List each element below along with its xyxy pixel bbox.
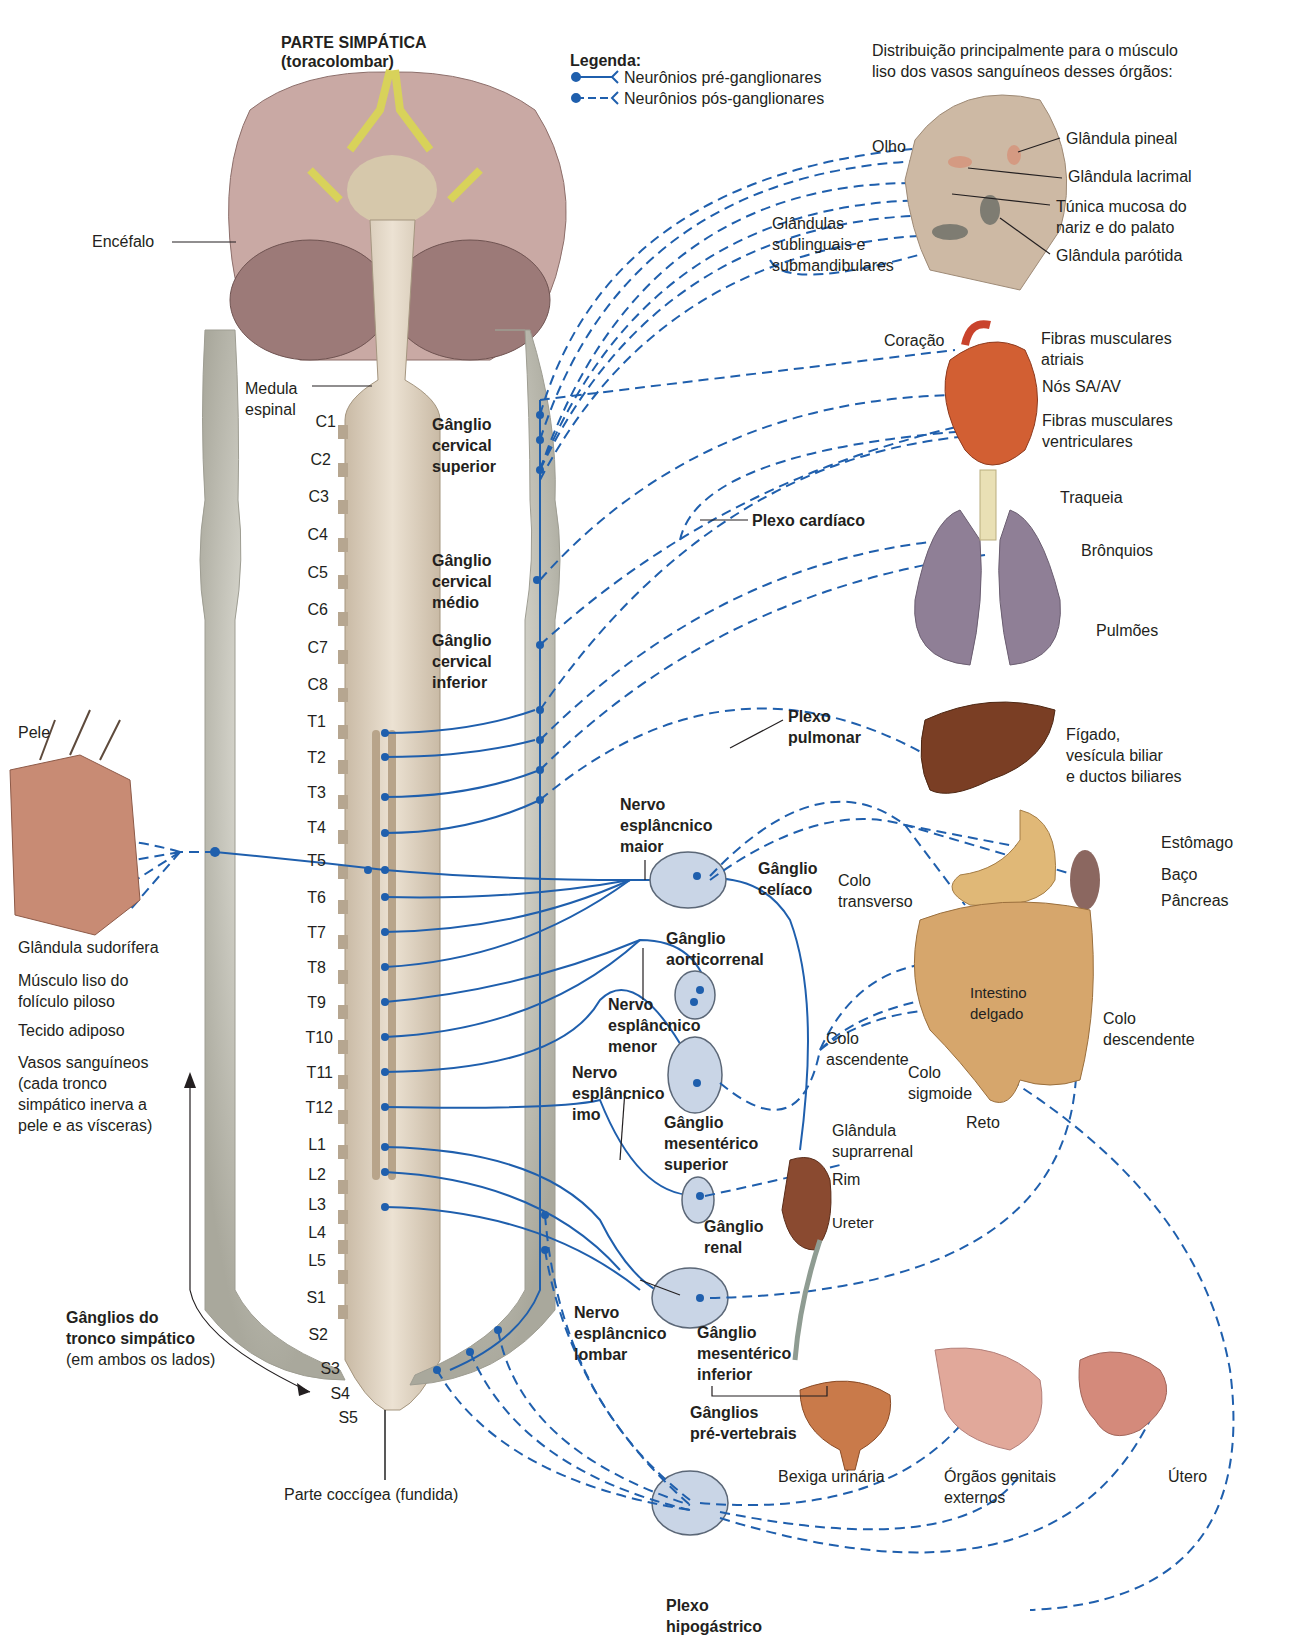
label-ganglio-renal: Gânglio renal xyxy=(704,1216,764,1258)
label-baco: Baço xyxy=(1161,864,1197,885)
legend-glyphs xyxy=(572,71,618,104)
segment-C6: C6 xyxy=(288,602,328,618)
label-encefalo: Encéfalo xyxy=(92,231,154,252)
label-ganglio-aorticorrenal: Gânglio aorticorrenal xyxy=(666,928,764,970)
segment-C4: C4 xyxy=(288,527,328,543)
head-illustration xyxy=(905,95,1067,290)
label-parte-coccigea: Parte coccígea (fundida) xyxy=(284,1484,458,1505)
label-ganglio-mesenterico-inferior: Gânglio mesentérico inferior xyxy=(697,1322,791,1385)
label-rim: Rim xyxy=(832,1169,860,1190)
label-colo-ascendente: Colo ascendente xyxy=(826,1028,909,1070)
segment-T4: T4 xyxy=(286,820,326,836)
label-estomago: Estômago xyxy=(1161,832,1233,853)
segment-T9: T9 xyxy=(286,995,326,1011)
label-lacrimal: Glândula lacrimal xyxy=(1068,166,1192,187)
label-olho: Olho xyxy=(872,136,906,157)
label-medula-espinal: Medula espinal xyxy=(245,378,297,420)
segment-T5: T5 xyxy=(286,853,326,869)
label-pineal: Glândula pineal xyxy=(1066,128,1177,149)
label-pulmoes: Pulmões xyxy=(1096,620,1158,641)
label-plexo-pulmonar: Plexo pulmonar xyxy=(788,706,861,748)
spinal-cord xyxy=(338,220,440,1480)
diagram-title: PARTE SIMPÁTICA xyxy=(281,32,426,53)
label-nervo-esplancnico-menor: Nervo esplâncnico menor xyxy=(608,994,700,1057)
segment-S5: S5 xyxy=(318,1410,358,1426)
label-ganglio-celiaco: Gânglio celíaco xyxy=(758,858,818,900)
skin-block-illustration xyxy=(10,710,140,935)
legend-item-postganglionic: Neurônios pós-ganglionares xyxy=(624,88,824,109)
label-ureter: Ureter xyxy=(832,1212,874,1233)
label-nos-sa-av: Nós SA/AV xyxy=(1042,376,1121,397)
label-pele: Pele xyxy=(18,722,50,743)
label-intestino-delgado: Intestino delgado xyxy=(970,982,1027,1024)
label-utero: Útero xyxy=(1168,1466,1207,1487)
label-nervo-esplancnico-maior: Nervo esplâncnico maior xyxy=(620,794,712,857)
label-fibras-ventriculares: Fibras musculares ventriculares xyxy=(1042,410,1173,452)
label-genitais: Órgãos genitais externos xyxy=(944,1466,1056,1508)
segment-T7: T7 xyxy=(286,925,326,941)
distribution-note: Distribuição principalmente para o múscu… xyxy=(872,40,1178,82)
label-mucosa: Túnica mucosa do nariz e do palato xyxy=(1056,196,1187,238)
segment-S3: S3 xyxy=(300,1361,340,1377)
label-tecido-adiposo: Tecido adiposo xyxy=(18,1020,125,1041)
segment-L4: L4 xyxy=(286,1225,326,1241)
label-fibras-atriais: Fibras musculares atriais xyxy=(1041,328,1172,370)
segment-L2: L2 xyxy=(286,1167,326,1183)
label-colo-transverso: Colo transverso xyxy=(838,870,913,912)
label-bexiga: Bexiga urinária xyxy=(778,1466,885,1487)
label-colo-descendente: Colo descendente xyxy=(1103,1008,1195,1050)
label-vasos-sanguineos: Vasos sanguíneos (cada tronco simpático … xyxy=(18,1052,152,1136)
label-figado: Fígado, vesícula biliar e ductos biliare… xyxy=(1066,724,1182,787)
segment-L5: L5 xyxy=(286,1253,326,1269)
legend-item-preganglionic: Neurônios pré-ganglionares xyxy=(624,67,821,88)
label-ganglios-tronco-simpatico: Gânglios do tronco simpático xyxy=(66,1307,195,1349)
segment-L1: L1 xyxy=(286,1137,326,1153)
label-plexo-hipogastrico: Plexo hipogástrico xyxy=(666,1595,762,1637)
segment-T2: T2 xyxy=(286,750,326,766)
label-bronquios: Brônquios xyxy=(1081,540,1153,561)
label-musculo-piloso: Músculo liso do folículo piloso xyxy=(18,970,128,1012)
segment-S2: S2 xyxy=(288,1327,328,1343)
segment-T3: T3 xyxy=(286,785,326,801)
segment-T11: T11 xyxy=(293,1065,333,1081)
segment-T12: T12 xyxy=(293,1100,333,1116)
label-pancreas: Pâncreas xyxy=(1161,890,1229,911)
label-ganglios-pre-vertebrais: Gânglios pré-vertebrais xyxy=(690,1402,797,1444)
label-plexo-cardiaco: Plexo cardíaco xyxy=(752,510,865,531)
label-ganglio-cervical-medio: Gânglio cervical médio xyxy=(432,550,492,613)
uterus-illustration xyxy=(1079,1352,1167,1436)
genitals-illustration xyxy=(935,1348,1042,1450)
liver-illustration xyxy=(921,702,1055,793)
label-glandula-sudorifera: Glândula sudorífera xyxy=(18,937,159,958)
label-ganglio-cervical-superior: Gânglio cervical superior xyxy=(432,414,496,477)
segment-T10: T10 xyxy=(293,1030,333,1046)
label-parotida: Glândula parótida xyxy=(1056,245,1182,266)
label-tronco-simpatico-note: (em ambos os lados) xyxy=(66,1349,215,1370)
segment-C2: C2 xyxy=(291,452,331,468)
segment-C3: C3 xyxy=(289,489,329,505)
segment-T1: T1 xyxy=(286,714,326,730)
segment-S1: S1 xyxy=(286,1290,326,1306)
lungs-illustration xyxy=(915,470,1061,665)
segment-C5: C5 xyxy=(288,565,328,581)
label-ganglio-cervical-inferior: Gânglio cervical inferior xyxy=(432,630,492,693)
label-nervo-esplancnico-lombar: Nervo esplâncnico lombar xyxy=(574,1302,666,1365)
segment-S4: S4 xyxy=(310,1386,350,1402)
segment-T8: T8 xyxy=(286,960,326,976)
segment-L3: L3 xyxy=(286,1197,326,1213)
diagram-subtitle: (toracolombar) xyxy=(281,51,394,72)
segment-C7: C7 xyxy=(288,640,328,656)
label-colo-sigmoide: Colo sigmoide xyxy=(908,1062,972,1104)
label-coracao: Coração xyxy=(884,330,944,351)
heart-illustration xyxy=(945,324,1038,465)
label-suprarrenal: Glândula suprarrenal xyxy=(832,1120,913,1162)
label-sublinguais: Glândulas sublinguais e submandibulares xyxy=(772,213,894,276)
label-ganglio-mesenterico-superior: Gânglio mesentérico superior xyxy=(664,1112,758,1175)
segment-C1: C1 xyxy=(296,414,336,430)
segment-C8: C8 xyxy=(288,677,328,693)
label-nervo-esplancnico-imo: Nervo esplâncnico imo xyxy=(572,1062,664,1125)
segment-T6: T6 xyxy=(286,890,326,906)
stomach-intestine-illustration xyxy=(914,810,1100,1103)
bladder-illustration xyxy=(800,1381,891,1470)
label-traqueia: Traqueia xyxy=(1060,487,1123,508)
